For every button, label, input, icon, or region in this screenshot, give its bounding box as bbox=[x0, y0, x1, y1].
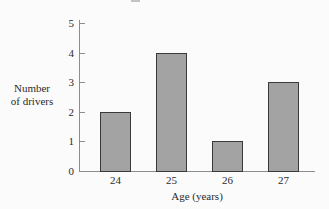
y-axis-tick-1 bbox=[80, 141, 85, 142]
y-axis-title-line-1: Number bbox=[4, 82, 60, 95]
x-axis-label-25: 25 bbox=[156, 174, 187, 186]
bar-chart-figure: 5 4 3 2 1 0 Number of drivers 24 25 26 2… bbox=[0, 0, 329, 209]
y-axis-tick-label-3: 3 bbox=[58, 77, 74, 88]
y-axis-tick-0 bbox=[80, 171, 85, 172]
bar-age-26 bbox=[212, 141, 243, 172]
x-axis-label-27: 27 bbox=[268, 174, 299, 186]
y-axis-tick-4 bbox=[80, 53, 85, 54]
x-axis-label-24: 24 bbox=[100, 174, 131, 186]
x-axis-title: Age (years) bbox=[79, 190, 315, 202]
y-axis-tick-label-1: 1 bbox=[58, 136, 74, 147]
y-axis-line bbox=[79, 20, 80, 172]
bar-age-24 bbox=[100, 112, 131, 172]
y-axis-tick-2 bbox=[80, 112, 85, 113]
bar-age-27 bbox=[268, 82, 299, 172]
y-axis-tick-label-0: 0 bbox=[58, 166, 74, 177]
y-axis-tick-label-2: 2 bbox=[58, 107, 74, 118]
x-axis-label-26: 26 bbox=[212, 174, 243, 186]
y-axis-tick-label-5: 5 bbox=[58, 18, 74, 29]
y-axis-tick-5 bbox=[80, 23, 85, 24]
y-axis-tick-label-4: 4 bbox=[58, 48, 74, 59]
y-axis-title-line-2: of drivers bbox=[4, 95, 60, 108]
bar-age-25 bbox=[156, 53, 187, 172]
y-axis-tick-3 bbox=[80, 82, 85, 83]
scan-edge-artifact bbox=[131, 0, 140, 2]
y-axis-title: Number of drivers bbox=[4, 82, 60, 108]
